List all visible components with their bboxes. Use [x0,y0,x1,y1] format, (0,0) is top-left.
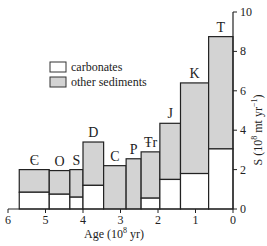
x-tick-label: 3 [118,213,124,227]
bar-segment-carbonates [19,192,49,209]
bar-segment-other-sediments [70,170,83,198]
y-tick-label: 10 [240,5,252,19]
bar-6 [126,159,141,209]
y-axis: 0246810 [233,5,252,216]
bar-segment-carbonates [160,179,181,209]
bar-segment-other-sediments [126,159,141,209]
period-label: Ŧr [144,135,158,150]
bar-segment-other-sediments [141,152,160,198]
bar-segment-other-sediments [49,171,70,195]
y-axis-title: S (108 mt yr−1) [250,95,265,166]
x-axis-title: Age (108 yr) [84,226,144,241]
bar-1 [19,170,49,209]
period-label: P [130,142,138,157]
bar-segment-carbonates [181,174,209,209]
x-axis: 6543210 [5,209,236,227]
period-label: S [73,153,81,168]
bar-10 [209,37,233,209]
bar-segment-other-sediments [83,142,104,185]
bar-2 [49,171,70,209]
bar-segment-other-sediments [160,123,181,179]
y-tick-label: 4 [240,123,246,137]
x-tick-label: 1 [193,213,199,227]
x-tick-label: 4 [80,213,86,227]
legend-swatch-other-sediments [50,77,66,87]
period-label: O [55,154,65,169]
bar-segment-carbonates [209,149,233,209]
bar-segment-other-sediments [209,37,233,149]
period-label: K [190,66,200,81]
bar-segment-other-sediments [181,83,209,174]
bar-3 [70,170,83,209]
x-tick-label: 0 [230,213,236,227]
bar-5 [104,166,127,209]
y-tick-label: 6 [240,84,246,98]
legend-swatch-carbonates [50,62,66,72]
period-label: D [88,125,98,140]
bar-9 [181,83,209,209]
bar-segment-carbonates [141,198,160,209]
bar-7 [141,152,160,209]
sediment-flux-chart: ЄOSDCPŦrJKT 6543210 0246810 carbonates o… [0,0,267,246]
y-tick-label: 0 [240,202,246,216]
y-tick-label: 2 [240,163,246,177]
bar-segment-carbonates [70,197,83,209]
period-label: J [167,106,173,121]
legend: carbonates other sediments [50,60,147,89]
y-tick-label: 8 [240,44,246,58]
x-tick-label: 6 [5,213,11,227]
period-label: Є [30,153,39,168]
bar-segment-carbonates [83,185,104,209]
bar-4 [83,142,104,209]
bar-segment-carbonates [49,194,70,209]
legend-label-other-sediments: other sediments [71,75,147,89]
bar-segment-other-sediments [19,170,49,193]
x-tick-label: 2 [155,213,161,227]
legend-label-carbonates: carbonates [71,60,123,74]
bar-segment-other-sediments [104,166,127,209]
period-label: T [217,20,226,35]
period-label: C [110,149,119,164]
bar-8 [160,123,181,209]
x-tick-label: 5 [43,213,49,227]
